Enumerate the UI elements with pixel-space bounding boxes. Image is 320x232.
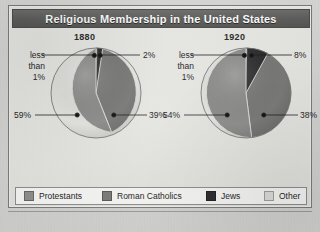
callout-roman-catholics-1920: 38% [300,110,317,121]
page-caption [8,213,312,232]
pie-chart-1920 [200,47,292,139]
legend-label-protestants: Protestants [39,191,82,201]
callout-other-1880: less than 1% [15,50,45,83]
chart-panel: 1880 1920 [12,30,310,183]
legend-label-jews: Jews [221,191,240,201]
scanned-page: Religious Membership in the United State… [0,0,320,232]
legend-swatch-jews [206,191,216,201]
legend-label-roman-catholics: Roman Catholics [117,191,182,201]
callout-protestants-1880: 59% [14,110,31,121]
legend-item-jews: Jews [206,191,240,201]
caption-divider [8,211,312,212]
callout-other-1920: less than 1% [164,50,194,83]
legend-swatch-other [264,191,274,201]
chart-figure: Religious Membership in the United State… [8,5,312,208]
legend-item-other: Other [264,191,300,201]
year-label-1920: 1920 [224,32,245,42]
pie-chart-1880 [50,47,142,139]
legend-swatch-roman-catholics [102,191,112,201]
callout-protestants-1920: 54% [163,110,180,121]
legend-label-other: Other [279,191,300,201]
callout-jews-1920: 8% [294,50,306,61]
legend-swatch-protestants [24,191,34,201]
chart-title-bar: Religious Membership in the United State… [12,9,310,28]
callout-jews-1880: 2% [143,50,155,61]
chart-legend: Protestants Roman Catholics Jews Other [15,187,307,205]
page-title: Religious Membership in the United State… [45,13,276,25]
year-label-1880: 1880 [74,32,95,42]
legend-item-roman-catholics: Roman Catholics [102,191,182,201]
legend-item-protestants: Protestants [24,191,82,201]
